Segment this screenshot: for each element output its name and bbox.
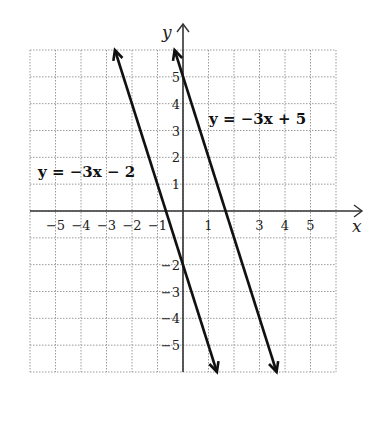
x-tick-label: −5	[46, 218, 65, 233]
y-tick-label: 5	[172, 70, 180, 85]
x-tick-label: 5	[306, 218, 314, 233]
y-tick-label: 1	[172, 177, 180, 192]
equation-label-line-2: y = −3x + 5	[208, 110, 306, 128]
coordinate-plane: −5−4−3−2−1134554321−2−3−4−5 y x y = −3x …	[0, 0, 373, 431]
x-tick-label: 4	[281, 218, 289, 233]
y-tick-label: −5	[161, 338, 180, 353]
y-tick-label: −2	[161, 258, 180, 273]
y-tick-label: −3	[161, 285, 180, 300]
equation-label-line-1: y = −3x − 2	[37, 163, 135, 181]
x-tick-label: −4	[71, 218, 90, 233]
x-tick-label: −2	[122, 218, 141, 233]
x-tick-label: 3	[255, 218, 263, 233]
y-tick-label: 4	[172, 97, 180, 112]
x-tick-label: 1	[204, 218, 212, 233]
y-tick-label: −4	[161, 311, 180, 326]
x-tick-label: −3	[97, 218, 116, 233]
y-tick-label: 2	[172, 150, 180, 165]
y-axis-label: y	[161, 22, 172, 42]
x-axis-label: x	[352, 216, 362, 236]
axes	[30, 24, 362, 372]
x-tick-label: −1	[148, 218, 167, 233]
y-tick-label: 3	[172, 124, 180, 139]
